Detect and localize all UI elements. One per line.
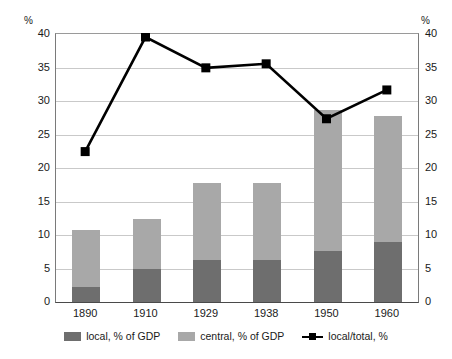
right-axis-tick-label: 40 [425,28,437,39]
left-axis-tick-label: 35 [38,62,50,73]
bar-segment-local[interactable] [133,269,161,302]
legend-label: local/total, % [328,330,388,342]
bar-segment-central[interactable] [133,219,161,269]
category-label: 1950 [297,307,357,319]
right-axis-tick-label: 25 [425,129,437,140]
right-axis-tick-label: 15 [425,196,437,207]
bar-segment-central[interactable] [72,230,100,286]
bar-segment-central[interactable] [193,183,221,261]
category-label: 1890 [55,307,115,319]
bar-segment-central[interactable] [374,116,402,242]
legend-label: central, % of GDP [200,330,284,342]
right-axis-tick-label: 20 [425,162,437,173]
right-axis-tick-label: 5 [425,263,431,274]
left-axis-tick-label: 25 [38,129,50,140]
right-axis-tick-label: 0 [425,296,431,307]
legend-item[interactable]: local/total, % [302,330,388,342]
bar-stack[interactable] [133,219,161,302]
right-axis-tick-label: 35 [425,62,437,73]
bar-segment-central[interactable] [253,183,281,259]
gridline [56,101,418,102]
left-axis-tick-label: 15 [38,196,50,207]
left-axis-tick-label: 30 [38,95,50,106]
gridline [56,135,418,136]
category-label: 1929 [176,307,236,319]
category-label: 1938 [236,307,296,319]
gridline [56,235,418,236]
right-axis-unit-label: % [421,15,430,26]
chart-container: % % 0510152025303540 0510152025303540 18… [0,0,452,359]
right-axis-tick-label: 10 [425,229,437,240]
gridline [56,168,418,169]
bar-segment-local[interactable] [72,287,100,302]
category-label: 1910 [116,307,176,319]
legend-line-marker-icon [302,332,323,341]
legend-swatch-icon [178,332,195,341]
bar-segment-local[interactable] [314,251,342,302]
gridline [56,68,418,69]
bar-segment-local[interactable] [193,260,221,302]
legend-swatch-icon [64,332,81,341]
bar-stack[interactable] [314,110,342,302]
left-axis-tick-label: 5 [44,263,50,274]
left-axis-unit-label: % [24,15,33,26]
left-axis-tick-label: 10 [38,229,50,240]
bar-stack[interactable] [374,116,402,302]
bar-segment-local[interactable] [253,260,281,302]
gridline [56,269,418,270]
left-axis-tick-label: 0 [44,296,50,307]
legend-label: local, % of GDP [86,330,160,342]
gridline [56,202,418,203]
bar-stack[interactable] [253,183,281,302]
bar-segment-local[interactable] [374,242,402,302]
right-axis-tick-label: 30 [425,95,437,106]
bar-stack[interactable] [193,183,221,302]
chart-legend: local, % of GDPcentral, % of GDPlocal/to… [0,330,452,342]
legend-item[interactable]: central, % of GDP [178,330,284,342]
bar-segment-central[interactable] [314,110,342,251]
bar-stack[interactable] [72,230,100,302]
legend-item[interactable]: local, % of GDP [64,330,160,342]
left-axis-tick-label: 40 [38,28,50,39]
category-label: 1960 [357,307,417,319]
left-axis-tick-label: 20 [38,162,50,173]
plot-area: 0510152025303540 0510152025303540 [55,33,419,303]
